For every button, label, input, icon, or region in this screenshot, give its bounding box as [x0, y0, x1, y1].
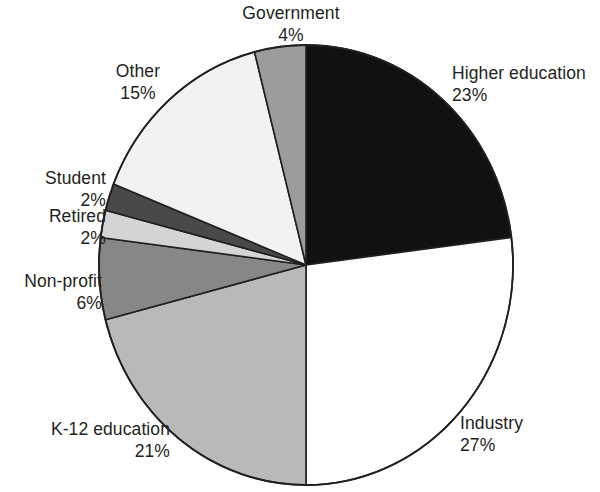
slice-label-government-value: 4%: [196, 24, 386, 46]
slice-label-industry: Industry 27%: [460, 412, 596, 457]
slice-label-retired-value: 2%: [0, 227, 106, 249]
slice-label-industry-name: Industry: [460, 412, 596, 434]
slice-label-non-profit: Non-profit 6%: [0, 270, 102, 315]
slice-label-higher-education-name: Higher education: [452, 62, 600, 84]
slice-label-k12-education-name: K-12 education: [10, 418, 170, 440]
slice-label-k12-education: K-12 education 21%: [10, 418, 170, 463]
slice-label-non-profit-name: Non-profit: [0, 270, 102, 292]
slice-label-government: Government 4%: [196, 2, 386, 47]
slice-label-other-value: 15%: [78, 82, 198, 104]
slice-label-higher-education-value: 23%: [452, 84, 600, 106]
slice-label-other-name: Other: [78, 60, 198, 82]
slice-label-student-name: Student: [0, 167, 106, 189]
slice-label-higher-education: Higher education 23%: [452, 62, 600, 107]
slice-label-retired-name: Retired: [0, 205, 106, 227]
slice-label-government-name: Government: [196, 2, 386, 24]
slice-label-k12-education-value: 21%: [10, 440, 170, 462]
slice-label-industry-value: 27%: [460, 434, 596, 456]
slice-label-non-profit-value: 6%: [0, 292, 102, 314]
pie-chart: Government 4% Higher education 23% Other…: [0, 0, 600, 492]
slice-label-retired: Retired 2%: [0, 205, 106, 250]
slice-label-other: Other 15%: [78, 60, 198, 105]
